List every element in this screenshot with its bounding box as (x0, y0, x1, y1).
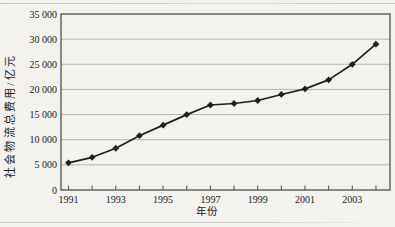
x-tick-label: 2001 (295, 194, 315, 205)
data-series (65, 41, 379, 166)
x-axis-title: 年份 (196, 205, 218, 217)
y-tick-label: 15 000 (30, 109, 58, 120)
data-point-marker (207, 102, 214, 109)
data-point-marker (183, 111, 190, 118)
data-point-marker (65, 159, 72, 166)
data-point-marker (302, 86, 309, 93)
y-tick-label: 10 000 (30, 134, 58, 145)
logistics-cost-line-chart: 05 00010 00015 00020 00025 00030 00035 0… (0, 0, 395, 227)
y-tick-label: 20 000 (30, 84, 58, 95)
y-tick-label: 0 (52, 185, 57, 196)
scanned-figure-page: 05 00010 00015 00020 00025 00030 00035 0… (0, 0, 395, 227)
x-tick-label: 1991 (59, 194, 79, 205)
data-point-marker (160, 122, 167, 129)
data-point-marker (231, 100, 238, 107)
y-tick-label: 35 000 (30, 9, 58, 20)
data-point-marker (112, 145, 119, 152)
data-point-marker (89, 154, 96, 161)
x-tick-label: 1997 (200, 194, 220, 205)
x-tick-label: 1995 (153, 194, 173, 205)
x-tick-label: 1999 (248, 194, 268, 205)
y-axis-tick-labels: 05 00010 00015 00020 00025 00030 00035 0… (30, 9, 58, 196)
y-tick-label: 30 000 (30, 34, 58, 45)
x-tick-label: 2003 (342, 194, 362, 205)
data-point-marker (254, 97, 261, 104)
data-point-marker (136, 132, 143, 139)
x-axis-ticks-and-labels: 1991199319951997199920012003 (59, 186, 376, 205)
y-axis-title: 社会物流总费用/亿元 (3, 54, 16, 178)
data-point-marker (278, 91, 285, 98)
plot-border (61, 14, 390, 190)
data-line (69, 44, 376, 163)
y-tick-label: 25 000 (30, 59, 58, 70)
y-tick-label: 5 000 (35, 159, 58, 170)
gridlines (61, 39, 390, 165)
x-tick-label: 1993 (106, 194, 126, 205)
